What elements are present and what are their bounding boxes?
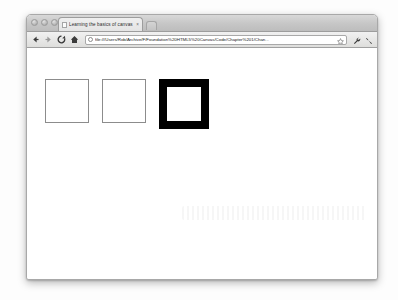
- tab-favicon-icon: [62, 22, 67, 28]
- wrench-icon[interactable]: [353, 31, 361, 49]
- browser-toolbar: file:///Users/Rob/Archive/F/Foundation%2…: [27, 32, 377, 48]
- reload-button[interactable]: [57, 35, 66, 44]
- url-text[interactable]: file:///Users/Rob/Archive/F/Foundation%2…: [95, 37, 335, 42]
- browser-window: Learning the basics of canvas ×: [26, 14, 378, 280]
- zoom-window-button[interactable]: [51, 19, 58, 26]
- page-viewport: [27, 48, 377, 280]
- bookmark-star-icon[interactable]: [337, 35, 344, 45]
- tab-title: Learning the basics of canvas: [69, 22, 134, 27]
- minimize-window-button[interactable]: [41, 19, 48, 26]
- scan-watermark: [182, 206, 367, 220]
- page-info-icon[interactable]: [88, 37, 93, 42]
- tab-close-icon[interactable]: ×: [136, 22, 139, 27]
- tab-strip: Learning the basics of canvas ×: [27, 15, 377, 32]
- forward-button[interactable]: [44, 35, 53, 44]
- canvas-shapes: [45, 79, 209, 129]
- square-thin-gray-1: [45, 79, 89, 123]
- close-window-button[interactable]: [31, 19, 38, 26]
- window-controls: [31, 19, 58, 26]
- new-tab-button[interactable]: [146, 21, 157, 30]
- home-button[interactable]: [70, 35, 79, 44]
- address-bar[interactable]: file:///Users/Rob/Archive/F/Foundation%2…: [85, 35, 347, 45]
- square-thick-black: [159, 79, 209, 129]
- square-thin-gray-2: [102, 79, 146, 123]
- back-button[interactable]: [31, 35, 40, 44]
- tools-icon[interactable]: [365, 31, 373, 49]
- browser-tab[interactable]: Learning the basics of canvas ×: [58, 17, 143, 31]
